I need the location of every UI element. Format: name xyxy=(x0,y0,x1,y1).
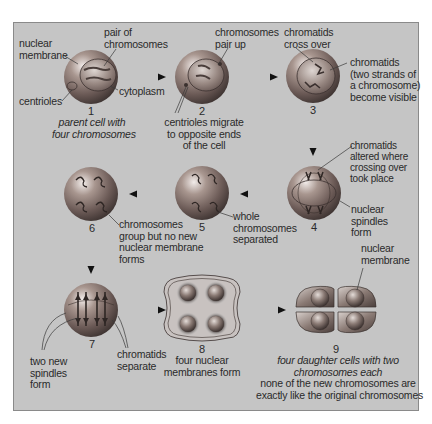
note-stage-9: none of the new chromosomes areexactly l… xyxy=(256,378,420,401)
label-two-new-spindles: two newspindlesform xyxy=(30,356,67,391)
cell-stage-6 xyxy=(64,167,118,221)
stage-number-7: 7 xyxy=(84,338,100,350)
cell-stage-3 xyxy=(286,49,340,103)
caption-stage-9: four daughter cells with twochromosomes … xyxy=(258,355,418,378)
caption-stage-2: centrioles migrateto opposite endsof the… xyxy=(164,117,244,152)
label-chromatids-visible: chromatids(two strands of a chromosome)b… xyxy=(350,57,420,103)
label-chromosomes-pair-up: chromosomespair up xyxy=(215,27,279,50)
label-pair-of-chromosomes: pair ofchromosomes xyxy=(104,27,168,50)
cell-stage-2 xyxy=(175,50,229,104)
cell-stage-9 xyxy=(296,286,376,332)
label-chromatids-separate: chromatidsseparate xyxy=(117,349,166,372)
label-nuclear-spindles: nuclearspindlesform xyxy=(351,204,388,239)
stage-number-3: 3 xyxy=(305,104,321,116)
caption-stage-1: parent cell withfour chromosomes xyxy=(52,117,132,140)
stage-number-6: 6 xyxy=(84,222,100,234)
label-centrioles: centrioles xyxy=(19,96,62,108)
label-nuclear-membrane-9: nuclearmembrane xyxy=(361,243,410,266)
leader-lines-stage-5 xyxy=(218,212,233,217)
label-whole-chromosomes: wholechromosomesseparated xyxy=(233,211,297,246)
cell-stage-8 xyxy=(164,275,240,341)
label-chromosomes-group: chromosomesgroup but no new nuclear memb… xyxy=(119,219,203,265)
cell-stage-5 xyxy=(175,166,229,220)
label-chromatids-cross-over: chromatidscross over xyxy=(284,27,333,50)
label-chromatids-altered: chromatidsaltered where crossing overtoo… xyxy=(350,140,408,184)
stage-number-4: 4 xyxy=(306,221,322,233)
label-nuclear-membrane-1: nuclearmembrane xyxy=(19,38,68,61)
label-cytoplasm: cytoplasm xyxy=(119,86,164,98)
leader-lines-stage-6 xyxy=(109,215,119,225)
cell-stage-7 xyxy=(64,283,118,337)
caption-stage-8: four nuclearmembranes form xyxy=(162,355,242,378)
